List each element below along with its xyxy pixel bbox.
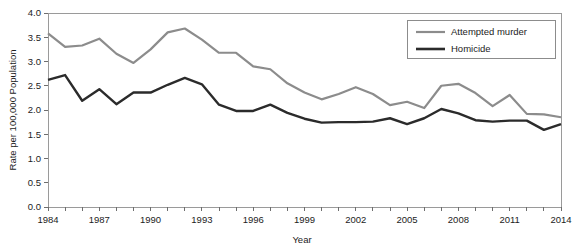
- y-tick-label: 2.0: [28, 104, 41, 115]
- x-tick-label: 1990: [140, 214, 161, 225]
- x-tick-label: 2002: [345, 214, 366, 225]
- x-tick-label: 1984: [37, 214, 58, 225]
- chart-container: 0.00.51.01.52.02.53.03.54.0 198419871990…: [0, 0, 575, 249]
- x-tick-label: 1987: [89, 214, 110, 225]
- y-tick-label: 0.5: [28, 177, 41, 188]
- y-tick-label: 4.0: [28, 7, 41, 18]
- y-axis-title: Rate per 100,000 Population: [7, 50, 18, 171]
- x-tick-label: 1996: [243, 214, 264, 225]
- x-axis-title: Year: [292, 234, 311, 245]
- y-tick-label: 2.5: [28, 80, 41, 91]
- y-tick-label: 0.0: [28, 201, 41, 212]
- legend-label-0: Attempted murder: [451, 26, 527, 37]
- x-tick-label: 2005: [397, 214, 418, 225]
- y-tick-label: 1.0: [28, 153, 41, 164]
- line-chart: 0.00.51.01.52.02.53.03.54.0 198419871990…: [0, 0, 575, 249]
- x-tick-label: 1993: [191, 214, 212, 225]
- legend-label-1: Homicide: [451, 43, 491, 54]
- x-tick-label: 2011: [499, 214, 519, 225]
- chart-legend: Attempted murderHomicide: [407, 20, 555, 58]
- x-tick-label: 2014: [550, 214, 571, 225]
- y-tick-label: 1.5: [28, 129, 41, 140]
- y-tick-label: 3.5: [28, 32, 41, 43]
- x-tick-label: 1999: [294, 214, 315, 225]
- y-tick-label: 3.0: [28, 56, 41, 67]
- x-tick-label: 2008: [448, 214, 469, 225]
